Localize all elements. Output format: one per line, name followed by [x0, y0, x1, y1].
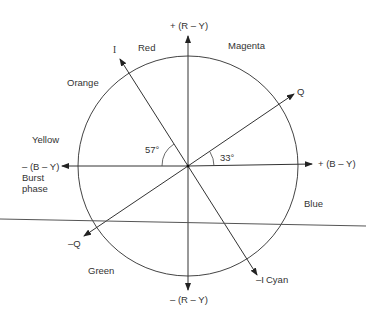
angle-57-arc: [162, 144, 174, 166]
q-axis-pos: [188, 94, 294, 166]
label-33: 33°: [220, 152, 234, 163]
b-y-axis-pos: [188, 164, 312, 166]
label-red: Red: [138, 42, 155, 53]
label-b-y-pos: + (B – Y): [318, 158, 356, 169]
label-magenta: Magenta: [228, 40, 265, 51]
label-orange: Orange: [67, 77, 99, 88]
q-axis-neg: [84, 166, 188, 236]
label-yellow: Yellow: [32, 134, 59, 145]
label-neg-i: –I: [256, 274, 264, 285]
i-axis-neg: [188, 166, 257, 275]
label-r-y-pos: + (R – Y): [170, 20, 208, 31]
horizontal-rule: [0, 219, 366, 226]
label-b-y-neg: – (B – Y): [22, 161, 59, 172]
label-cyan: Cyan: [266, 274, 288, 285]
label-57: 57°: [145, 144, 159, 155]
label-i: I: [113, 45, 116, 56]
label-r-y-neg: – (R – Y): [170, 294, 208, 305]
label-phase: phase: [22, 183, 48, 194]
phase-diagram: [0, 0, 366, 320]
label-neg-q: –Q: [68, 238, 81, 249]
label-blue: Blue: [304, 198, 323, 209]
label-q: Q: [297, 86, 304, 97]
label-green: Green: [88, 265, 114, 276]
angle-33-arc: [210, 152, 214, 166]
label-burst: Burst: [22, 172, 44, 183]
